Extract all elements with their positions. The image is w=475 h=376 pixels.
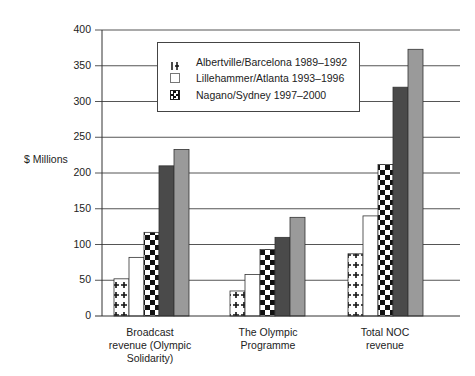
y-tick-label: 100	[61, 238, 91, 250]
bar	[245, 275, 260, 316]
y-tick-label: 200	[61, 166, 91, 178]
y-tick-label: 50	[61, 273, 91, 285]
bar	[275, 237, 290, 316]
x-category-label: The OlympicProgramme	[213, 326, 323, 352]
y-axis-label: $ Millions	[24, 153, 68, 165]
bar	[114, 279, 129, 316]
checker-pattern-swatch-icon	[170, 90, 180, 100]
bar	[174, 149, 189, 316]
legend-item-albertville-barcelona: Albertville/Barcelona 1989–1992	[158, 55, 359, 69]
crosses-pattern-swatch-icon	[170, 57, 180, 67]
bar	[363, 216, 378, 316]
y-tick-label: 350	[61, 59, 91, 71]
x-category-label: Total NOCrevenue	[330, 326, 440, 352]
bar	[290, 217, 305, 316]
legend-item-lillehammer-atlanta: Lillehammer/Atlanta 1993–1996	[158, 71, 359, 85]
y-tick-label: 0	[61, 309, 91, 321]
bar	[393, 87, 408, 316]
bar	[378, 164, 393, 316]
white-swatch-icon	[170, 73, 180, 83]
bar	[144, 232, 159, 316]
bar	[348, 254, 363, 316]
y-tick-label: 400	[61, 23, 91, 35]
y-tick-label: 300	[61, 95, 91, 107]
y-tick-label: 250	[61, 130, 91, 142]
legend-item-nagano-sydney: Nagano/Sydney 1997–2000	[158, 88, 359, 102]
y-tick-label: 150	[61, 202, 91, 214]
bar	[129, 257, 144, 316]
bar	[230, 291, 245, 316]
bar	[159, 166, 174, 316]
bar	[408, 49, 423, 316]
legend: Albertville/Barcelona 1989–1992 Lilleham…	[157, 42, 360, 112]
x-category-label: Broadcastrevenue (OlympicSolidarity)	[95, 326, 205, 365]
bar	[260, 250, 275, 316]
